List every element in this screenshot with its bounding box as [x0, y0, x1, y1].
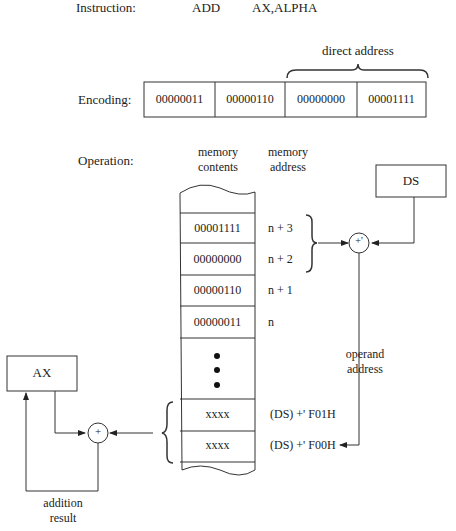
- encoding-byte-3: 00001111: [357, 92, 426, 107]
- instruction-mnemonic: ADD: [192, 0, 220, 16]
- adder-icon: +: [88, 425, 108, 437]
- ds-register: DS: [376, 173, 446, 189]
- memory-address-header: memory address: [258, 145, 318, 175]
- memory-cell-address: (DS) +' F01H: [270, 407, 336, 422]
- direct-address-label: direct address: [322, 43, 394, 59]
- memory-cell-address: n + 2: [268, 252, 293, 267]
- memory-cell-content: 00001111: [180, 221, 255, 236]
- encoding-byte-0: 00000011: [144, 92, 215, 107]
- memory-contents-header: memory contents: [178, 145, 258, 175]
- memory-cell-content: xxxx: [180, 438, 255, 453]
- memory-cell-address: n + 3: [268, 221, 293, 236]
- adder-icon: +': [349, 235, 369, 246]
- encoding-byte-1: 00000110: [215, 92, 285, 107]
- memory-cell-content: 00000110: [180, 283, 255, 298]
- memory-cell-content: xxxx: [180, 407, 255, 422]
- encoding-byte-2: 00000000: [285, 92, 357, 107]
- instruction-label: Instruction:: [76, 0, 136, 16]
- addition-result-label: addition result: [28, 496, 98, 526]
- instruction-operands: AX,ALPHA: [252, 0, 317, 16]
- encoding-label: Encoding:: [78, 92, 131, 108]
- operand-address-label: operand address: [330, 347, 400, 377]
- memory-cell-address: n: [268, 315, 274, 330]
- memory-cell-address: n + 1: [268, 283, 293, 298]
- operation-label: Operation:: [78, 153, 134, 169]
- memory-cell-address: (DS) +' F00H: [270, 438, 336, 453]
- memory-cell-content: 00000000: [180, 252, 255, 267]
- memory-cell-content: 00000011: [180, 315, 255, 330]
- ax-register: AX: [7, 365, 77, 381]
